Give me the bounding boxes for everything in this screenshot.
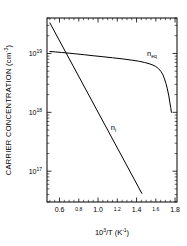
- x-tick-label-1.8: 1.8: [170, 206, 180, 213]
- x-tick-label-0.6: 0.6: [55, 206, 65, 213]
- x-tick-label-1.6: 1.6: [152, 206, 159, 212]
- carrier-concentration-chart: 0.60.81.01.21.41.61.8 101710181019 neqni…: [0, 0, 187, 246]
- chart-svg: 0.60.81.01.21.41.61.8 101710181019 neqni…: [0, 0, 187, 246]
- x-tick-label-0.8: 0.8: [75, 206, 82, 212]
- x-tick-label-1.0: 1.0: [93, 206, 103, 213]
- y-axis-title: CARRIER CONCENTRATION (cm-3): [3, 44, 13, 175]
- x-tick-label-1.4: 1.4: [132, 206, 142, 213]
- x-tick-label-1.2: 1.2: [114, 206, 121, 212]
